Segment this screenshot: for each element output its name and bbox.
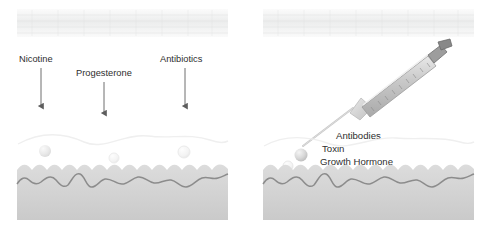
plunger-flange — [438, 39, 452, 50]
stratum-corneum-band-right — [263, 9, 474, 37]
label-progesterone: Progesterone — [76, 68, 132, 78]
permeation-injection-diagram: Nicotine Progesterone Antibiotics — [0, 0, 481, 234]
molecule-sphere — [109, 153, 119, 163]
macromolecule-sphere — [295, 149, 308, 162]
label-antibiotics: Antibiotics — [160, 54, 203, 64]
molecule-sphere — [178, 146, 190, 158]
epidermis-interface-left — [18, 135, 228, 145]
passive-diffusion-panel: Nicotine Progesterone Antibiotics — [17, 9, 228, 220]
label-nicotine: Nicotine — [19, 54, 53, 64]
injection-panel: Antibodies Toxin Growth Hormone Insulin — [263, 9, 474, 220]
dermis-tissue-left — [17, 165, 228, 220]
syringe-barrel — [362, 55, 436, 118]
molecule-sphere — [39, 145, 51, 157]
stratum-corneum-band-left — [17, 9, 228, 37]
dermis-tissue-right — [263, 165, 474, 220]
